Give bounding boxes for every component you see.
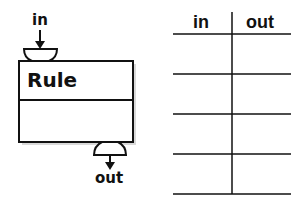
input-connector — [24, 49, 57, 61]
input-arrow-head-icon — [35, 41, 45, 49]
output-label: out — [95, 171, 123, 186]
input-label: in — [32, 13, 48, 28]
table-header-in: in — [193, 13, 209, 31]
output-connector — [94, 142, 126, 155]
table-header-out: out — [246, 13, 274, 31]
rule-title: Rule — [27, 70, 77, 90]
